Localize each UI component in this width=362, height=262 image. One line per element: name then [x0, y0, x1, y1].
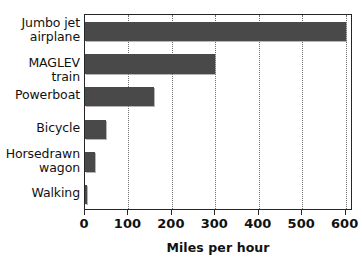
- tick-label-300: 300: [201, 216, 228, 231]
- plot-area: [84, 14, 352, 210]
- tick-label-0: 0: [79, 216, 88, 231]
- category-label: Horsedrawn wagon: [0, 147, 80, 176]
- category-label: Jumbo jet airplane: [0, 16, 80, 45]
- gridline-300: [215, 15, 216, 209]
- gridline-400: [259, 15, 260, 209]
- tick-label-100: 100: [114, 216, 141, 231]
- category-label: Walking: [0, 186, 80, 201]
- bar: [85, 152, 95, 172]
- gridline-600: [346, 15, 347, 209]
- tick-0: [84, 210, 85, 215]
- bar: [85, 54, 215, 74]
- category-label: MAGLEV train: [0, 56, 80, 85]
- gridline-100: [128, 15, 129, 209]
- tick-200: [171, 210, 172, 215]
- bar: [85, 87, 154, 107]
- tick-label-200: 200: [157, 216, 184, 231]
- category-label: Powerboat: [0, 88, 80, 103]
- x-axis-tick-labels: 0100200300400500600: [84, 216, 352, 236]
- tick-100: [127, 210, 128, 215]
- tick-label-400: 400: [244, 216, 271, 231]
- category-label: Bicycle: [0, 121, 80, 136]
- gridline-500: [302, 15, 303, 209]
- tick-label-500: 500: [288, 216, 315, 231]
- bar: [85, 120, 106, 140]
- gridline-200: [172, 15, 173, 209]
- category-axis-labels: Jumbo jet airplaneMAGLEV trainPowerboatB…: [0, 14, 80, 210]
- tick-500: [301, 210, 302, 215]
- bar-chart: Jumbo jet airplaneMAGLEV trainPowerboatB…: [0, 0, 362, 262]
- tick-400: [258, 210, 259, 215]
- bar: [85, 185, 87, 205]
- tick-300: [214, 210, 215, 215]
- tick-600: [345, 210, 346, 215]
- tick-label-600: 600: [331, 216, 358, 231]
- bar: [85, 22, 346, 42]
- x-axis-title: Miles per hour: [84, 240, 352, 255]
